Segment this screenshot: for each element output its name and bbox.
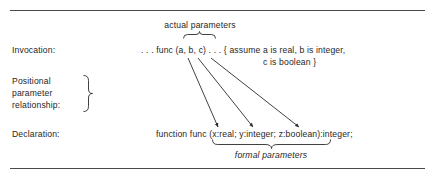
formal-parameters-caption: formal parameters — [231, 150, 311, 161]
invocation-code-line: . . . func (a, b, c) . . . { assume a is… — [141, 45, 345, 56]
positional-label-line-1: Positional — [12, 76, 51, 87]
positional-label-line-2: parameter — [12, 88, 53, 99]
arrow-c-to-z-icon — [211, 58, 299, 127]
declaration-keyword: function — [156, 129, 187, 139]
actual-parameters-caption: actual parameters — [160, 20, 240, 31]
top-rule — [10, 10, 425, 11]
invocation-row-label: Invocation: — [12, 45, 55, 56]
bottom-brace-icon — [213, 140, 331, 149]
declaration-code-line: function func (x:real; y:integer; z:bool… — [156, 129, 353, 140]
positional-label-line-3: relationship: — [12, 100, 60, 111]
declaration-row-label: Declaration: — [12, 129, 60, 140]
positional-brace-icon — [84, 76, 93, 112]
arrow-a-to-x-icon — [188, 58, 218, 127]
figure-parameter-correspondence: actual parameters Invocation: . . . func… — [0, 0, 435, 179]
invocation-comment-continuation: c is boolean } — [263, 57, 316, 68]
top-brace-icon — [184, 32, 216, 39]
bottom-rule — [10, 168, 425, 169]
arrow-b-to-y-icon — [198, 58, 253, 127]
declaration-identifier: func — [190, 129, 207, 139]
declaration-signature: (x:real; y:integer; z:boolean):integer; — [209, 129, 352, 139]
